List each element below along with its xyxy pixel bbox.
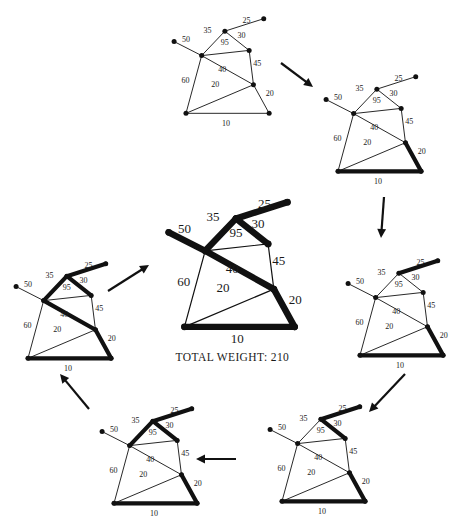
arrow-panel3-to-panel4-shaft [373, 374, 405, 408]
arrow-panel6-to-final-shaft [108, 268, 144, 291]
arrow-panel2-to-panel3-head [377, 229, 386, 238]
arrow-panel4-to-panel5-head [196, 455, 205, 464]
arrow-panel2-to-panel3-shaft [381, 197, 384, 232]
arrow-panel1-to-panel2-shaft [281, 63, 308, 83]
arrow-panel5-to-panel6-shaft [64, 379, 89, 409]
